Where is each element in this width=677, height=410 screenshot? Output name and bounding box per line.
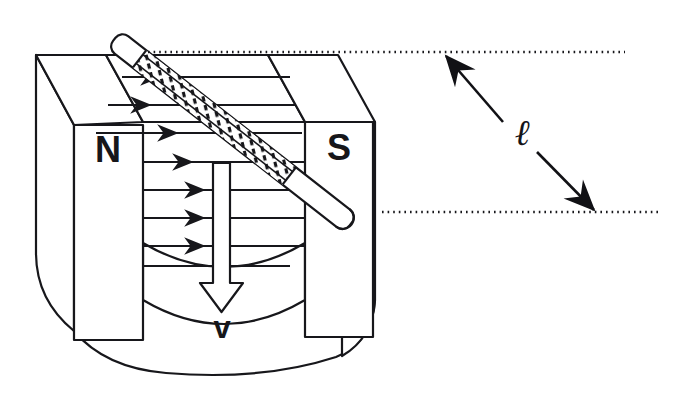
velocity-arrow (200, 163, 243, 312)
dimension-arrow-up (446, 56, 503, 122)
south-pole-label: S (327, 127, 351, 168)
dimension-arrow-down (537, 152, 594, 210)
north-pole-label: N (95, 129, 121, 170)
physics-diagram-figure: v (0, 0, 677, 410)
velocity-label: v (213, 310, 231, 345)
length-dimension-label: ℓ (515, 113, 530, 153)
diagram-canvas: v (0, 0, 677, 410)
velocity-arrow-shape (200, 163, 243, 312)
